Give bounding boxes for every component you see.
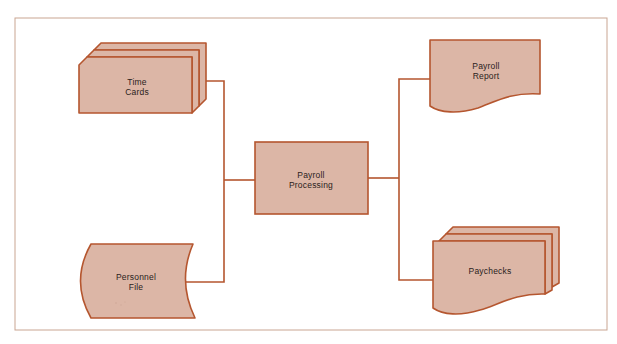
paychecks-label: Paychecks <box>455 266 525 276</box>
time-cards-line1: Time <box>112 77 162 87</box>
payroll-report-line1: Payroll <box>456 61 516 71</box>
personnel-file-label: Personnel File <box>106 272 166 292</box>
paychecks-line1: Paychecks <box>455 266 525 276</box>
time-cards-label: Time Cards <box>112 77 162 97</box>
personnel-file-line2: File <box>106 282 166 292</box>
personnel-file-line1: Personnel <box>106 272 166 282</box>
payroll-report-line2: Report <box>456 71 516 81</box>
payroll-processing-line2: Processing <box>276 180 346 190</box>
connector-left <box>186 81 255 282</box>
time-cards-line2: Cards <box>112 87 162 97</box>
payroll-processing-label: Payroll Processing <box>276 170 346 190</box>
payroll-report-label: Payroll Report <box>456 61 516 81</box>
connector-right <box>368 79 434 280</box>
payroll-processing-line1: Payroll <box>276 170 346 180</box>
